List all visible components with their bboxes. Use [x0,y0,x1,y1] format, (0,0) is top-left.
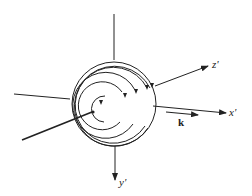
k-vector-label: k [178,116,184,128]
sphere-diagram [0,0,252,196]
x-axis-label: x' [229,106,236,118]
field-line-arrows [99,83,154,105]
z-axis [155,66,208,86]
x-axis [153,106,226,113]
k-vector [166,112,198,115]
horizontal-axis-left [14,94,70,99]
sphere [72,62,156,146]
y-axis-label: y' [119,176,126,188]
z-axis-label: z' [212,58,219,70]
